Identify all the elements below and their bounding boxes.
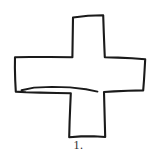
figure-caption: 1. xyxy=(0,138,157,152)
figure-panel: 1. xyxy=(0,0,157,156)
cross-drawing xyxy=(0,0,157,156)
drawing-background xyxy=(0,0,157,156)
